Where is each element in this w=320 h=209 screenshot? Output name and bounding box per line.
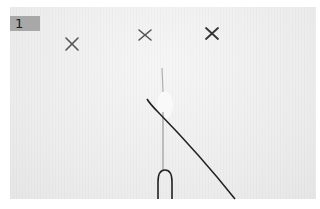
x-mark-icon [139, 30, 151, 40]
stitch-illustration [0, 0, 320, 209]
thread-loop [158, 170, 172, 199]
x-mark-icon [66, 38, 78, 50]
needle-icon [162, 68, 163, 170]
fabric-pucker [157, 91, 173, 119]
x-mark-icon [206, 28, 218, 39]
thread [147, 99, 235, 199]
